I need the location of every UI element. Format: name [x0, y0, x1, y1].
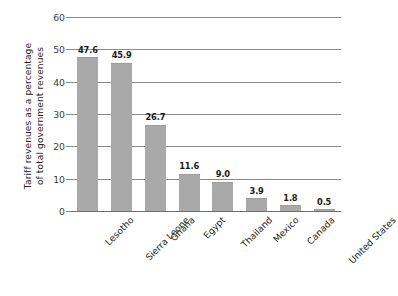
- gridline-0: [71, 211, 341, 212]
- bar-value-label: 3.9: [250, 186, 264, 196]
- bar: [179, 174, 200, 212]
- bar: [212, 182, 233, 211]
- x-tick-label: Canada: [306, 215, 338, 247]
- x-tick-label: Thailand: [239, 215, 274, 250]
- bar: [77, 57, 98, 211]
- bar-value-label: 1.8: [283, 193, 297, 203]
- bar-value-label: 45.9: [112, 50, 132, 60]
- y-tick-label-50: 50: [43, 44, 65, 55]
- bar: [246, 198, 267, 211]
- y-tick-label-0: 0: [43, 206, 65, 217]
- y-tick-label-40: 40: [43, 76, 65, 87]
- bar-series: 47.645.926.711.69.03.91.80.5: [71, 17, 341, 211]
- y-tick-label-30: 30: [43, 109, 65, 120]
- y-tick-label-10: 10: [43, 173, 65, 184]
- bar: [111, 63, 132, 211]
- bar-value-label: 47.6: [78, 45, 98, 55]
- bar-group: 3.9: [246, 17, 267, 211]
- bar-group: 26.7: [145, 17, 166, 211]
- bar-value-label: 11.6: [179, 161, 199, 171]
- bar-group: 9.0: [212, 17, 233, 211]
- bar: [314, 209, 335, 211]
- bar-value-label: 9.0: [216, 169, 230, 179]
- plot-area: 47.645.926.711.69.03.91.80.5: [71, 17, 341, 211]
- x-tick-label: Mexico: [271, 215, 301, 245]
- bar-value-label: 26.7: [145, 112, 165, 122]
- bar-group: 47.6: [77, 17, 98, 211]
- bar: [280, 205, 301, 211]
- x-tick-label: Lesotho: [103, 215, 135, 247]
- x-axis-category-labels: LesothoSierra LeoneGhanaEgyptThailandMex…: [71, 213, 341, 295]
- bar: [145, 125, 166, 211]
- x-tick-label: Egypt: [202, 215, 228, 241]
- bar-group: 45.9: [111, 17, 132, 211]
- x-tick-label: United States: [347, 215, 398, 266]
- y-axis-title-line-1: Tariff revenues as a percentage: [22, 43, 34, 189]
- bar-group: 1.8: [280, 17, 301, 211]
- y-tick-label-60: 60: [43, 12, 65, 23]
- bar-group: 0.5: [314, 17, 335, 211]
- y-axis-tick-labels: 0102030405060: [41, 17, 65, 211]
- y-tick-label-20: 20: [43, 141, 65, 152]
- bar-group: 11.6: [179, 17, 200, 211]
- bar-value-label: 0.5: [317, 197, 331, 207]
